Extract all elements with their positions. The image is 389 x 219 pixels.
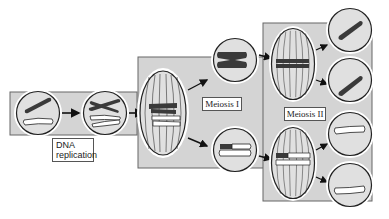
gamete-4 [326, 161, 374, 209]
cell-replicated [81, 89, 129, 137]
meiosis-diagram [0, 0, 389, 219]
light-chromosome-icon [23, 118, 53, 125]
gamete-3 [326, 110, 374, 158]
cell-unreplicated [14, 89, 62, 137]
meiosis-1-label: Meiosis I [202, 97, 242, 111]
meiosis-2-label: Meiosis II [284, 107, 326, 121]
dna-replication-label: DNA replication [52, 138, 94, 162]
cell-meiosis-2-spindle-top [269, 26, 317, 102]
cell-meiosis-1-daughter-bottom [211, 126, 259, 174]
label-line-1: DNA [56, 140, 90, 150]
cell-meiosis-1-spindle [137, 68, 189, 158]
cell-meiosis-2-spindle-bottom [269, 125, 317, 201]
cell-meiosis-1-daughter-top [211, 36, 259, 84]
gamete-1 [326, 6, 374, 54]
gamete-2 [326, 56, 374, 104]
label-line-2: replication [56, 150, 90, 160]
